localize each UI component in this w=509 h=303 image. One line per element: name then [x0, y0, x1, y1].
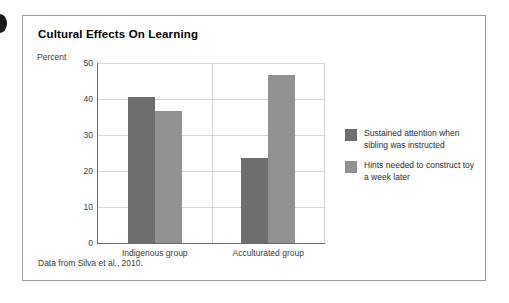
legend-color-swatch — [345, 161, 357, 173]
y-axis-tick-label: 50 — [84, 58, 93, 68]
x-axis-group-label: Acculturated group — [233, 248, 304, 258]
source-note: Data from Silva et al., 2010. — [38, 258, 143, 268]
legend-label: Hints needed to construct toy a week lat… — [364, 160, 477, 183]
plot-area: 01020304050Indigenous groupAcculturated … — [97, 63, 325, 244]
x-axis-group-label: Indigenous group — [122, 248, 188, 258]
bar — [268, 75, 295, 243]
chart-panel: Cultural Effects On Learning Percent 010… — [22, 15, 486, 281]
y-axis-tick-label: 0 — [88, 238, 93, 248]
legend-color-swatch — [345, 129, 357, 141]
chart-title: Cultural Effects On Learning — [38, 28, 198, 40]
legend-item: Hints needed to construct toy a week lat… — [345, 160, 477, 183]
y-axis-tick-label: 40 — [84, 94, 93, 104]
legend-label: Sustained attention when sibling was ins… — [364, 128, 477, 151]
bar — [241, 158, 268, 243]
chart-legend: Sustained attention when sibling was ins… — [345, 128, 477, 192]
y-axis-tick-label: 20 — [84, 166, 93, 176]
y-axis-unit-label: Percent — [37, 52, 66, 62]
group-divider-line — [212, 63, 213, 243]
legend-item: Sustained attention when sibling was ins… — [345, 128, 477, 151]
y-axis-tick-label: 10 — [84, 202, 93, 212]
bar — [128, 97, 155, 243]
figure-root: Cultural Effects On Learning Percent 010… — [0, 0, 509, 303]
y-axis-tick-label: 30 — [84, 130, 93, 140]
plot-right-edge-line — [324, 63, 325, 243]
bar — [155, 111, 182, 243]
figure-number-marker — [0, 14, 7, 33]
